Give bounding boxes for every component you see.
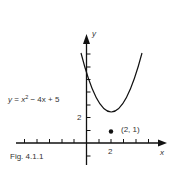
y-axis-arrow-icon [83,34,90,44]
y-axis-label: y [92,30,96,38]
x-axis-arrow-icon [158,140,167,147]
vertex-label: (2, 1) [121,126,140,134]
parabola-curve [81,53,142,112]
y-tick-label-2: 2 [77,114,81,122]
equation-label: y = x2 − 4x + 5 [8,95,59,104]
x-axis-label: x [160,149,164,157]
figure-caption: Fig. 4.1.1 [10,153,43,161]
vertex-point [109,129,113,133]
parabola-plot [0,0,180,173]
x-tick-label-2: 2 [108,148,112,156]
